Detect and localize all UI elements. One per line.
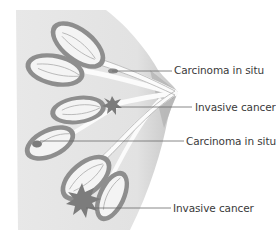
breast-cancer-diagram: Carcinoma in situ Invasive cancer Carcin… — [0, 0, 276, 241]
label-invasive-cancer-bottom: Invasive cancer — [173, 202, 254, 214]
label-carcinoma-in-situ-top: Carcinoma in situ — [174, 64, 264, 76]
label-invasive-cancer-upper: Invasive cancer — [195, 101, 276, 113]
carcinoma-in-situ-2 — [32, 141, 42, 148]
label-carcinoma-in-situ-lower: Carcinoma in situ — [186, 135, 276, 147]
